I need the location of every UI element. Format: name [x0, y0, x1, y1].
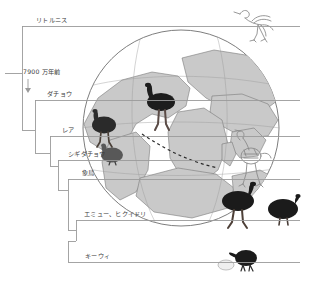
cladogram-lines — [0, 0, 323, 285]
figure-canvas: リトルニス 7900 万年前 ダチョウ レア シギダチョウ 象鳥 エミュー、ヒク… — [0, 0, 323, 285]
label-emu-cassowary: エミュー、ヒクイドリ — [84, 211, 147, 217]
label-elephant-bird: 象鳥 — [82, 170, 95, 176]
label-divergence-age: 7900 万年前 — [23, 69, 61, 75]
label-rhea: レア — [62, 127, 75, 133]
label-tinamou: シギダチョウ — [68, 151, 106, 157]
label-ostrich: ダチョウ — [47, 91, 72, 97]
label-lithornis: リトルニス — [36, 17, 67, 23]
divergence-arrow-icon — [25, 79, 31, 93]
label-kiwi: キーウィ — [85, 253, 110, 259]
